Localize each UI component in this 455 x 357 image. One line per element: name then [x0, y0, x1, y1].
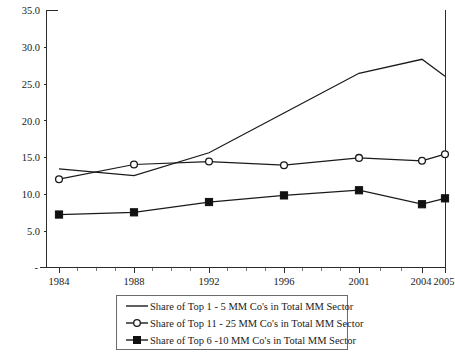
- x-axis-label-2004: 2004: [411, 276, 433, 287]
- data-point-marker: [442, 151, 449, 158]
- legend-item-top-6-10[interactable]: Share of Top 6 -10 MM Co's in Total MM S…: [126, 335, 356, 346]
- data-point-marker: [130, 209, 137, 216]
- y-axis-label-zero: -: [35, 262, 39, 273]
- legend-label-top-1-5: Share of Top 1 - 5 MM Co's in Total MM S…: [150, 301, 354, 312]
- y-axis-ticks: [40, 47, 47, 267]
- line-chart-figure: 35.0 30.0 25.0 20.0 15.0 10.0 5.0 -: [0, 0, 455, 357]
- legend-label-top-6-10: Share of Top 6 -10 MM Co's in Total MM S…: [150, 335, 356, 346]
- data-series-layer: [55, 59, 448, 218]
- data-point-marker: [281, 162, 288, 169]
- legend-item-top-1-5[interactable]: Share of Top 1 - 5 MM Co's in Total MM S…: [126, 301, 354, 312]
- series-2: [56, 151, 449, 183]
- x-axis-label-1996: 1996: [274, 276, 295, 287]
- legend-label-top-11-25: Share of Top 11 - 25 MM Co's in Total MM…: [150, 318, 364, 329]
- chart-canvas: 35.0 30.0 25.0 20.0 15.0 10.0 5.0 -: [0, 0, 455, 357]
- chart-legend: Share of Top 1 - 5 MM Co's in Total MM S…: [117, 296, 364, 350]
- x-axis-label-1984: 1984: [49, 276, 71, 287]
- y-axis-label-25: 25.0: [22, 79, 40, 90]
- y-axis-label-20: 20.0: [22, 116, 40, 127]
- y-axis-label-30: 30.0: [22, 42, 40, 53]
- series-line-3: [59, 190, 445, 214]
- x-axis-labels: 1984 1988 1992 1996 2001 2004 2005: [49, 276, 455, 287]
- series-line-2: [59, 154, 445, 179]
- data-point-marker: [356, 154, 363, 161]
- data-point-marker: [55, 211, 62, 218]
- legend-circle-icon: [134, 320, 141, 327]
- data-point-marker: [131, 161, 138, 168]
- legend-square-icon: [134, 337, 141, 344]
- data-point-marker: [418, 201, 425, 208]
- x-axis-label-2001: 2001: [349, 276, 370, 287]
- data-point-marker: [441, 195, 448, 202]
- data-point-marker: [205, 198, 212, 205]
- x-axis-ticks: [59, 268, 445, 274]
- data-point-marker: [56, 176, 63, 183]
- legend-item-top-11-25[interactable]: Share of Top 11 - 25 MM Co's in Total MM…: [126, 318, 364, 329]
- x-axis-label-2005: 2005: [434, 276, 455, 287]
- data-point-marker: [419, 157, 426, 164]
- x-axis-label-1988: 1988: [124, 276, 145, 287]
- data-point-marker: [280, 192, 287, 199]
- data-point-marker: [206, 158, 213, 165]
- y-axis-label-35: 35.0: [22, 5, 40, 16]
- y-axis-labels: 35.0 30.0 25.0 20.0 15.0 10.0 5.0 -: [22, 5, 40, 272]
- y-axis-label-10: 10.0: [22, 189, 40, 200]
- y-axis-label-15: 15.0: [22, 152, 40, 163]
- data-point-marker: [355, 187, 362, 194]
- series-line-1: [59, 59, 445, 175]
- y-axis-label-5: 5.0: [27, 226, 40, 237]
- plot-frame: [47, 10, 446, 268]
- x-axis-label-1992: 1992: [199, 276, 220, 287]
- series-1: [59, 59, 445, 175]
- series-3: [55, 187, 448, 218]
